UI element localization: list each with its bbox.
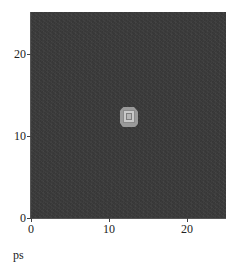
y-tick-20 <box>27 54 31 55</box>
unit-label: ps <box>13 248 24 263</box>
x-tick-label-0: 0 <box>19 223 43 235</box>
heatmap-plot-area <box>31 12 226 218</box>
y-tick-label-20: 20 <box>2 48 26 60</box>
y-tick-10 <box>27 136 31 137</box>
x-tick-label-20: 20 <box>175 223 199 235</box>
y-axis-line <box>30 12 31 219</box>
bright-spot-inner-contour <box>126 113 132 120</box>
x-tick-label-10: 10 <box>97 223 121 235</box>
y-tick-label-10: 10 <box>2 130 26 142</box>
x-axis-line <box>30 218 226 219</box>
